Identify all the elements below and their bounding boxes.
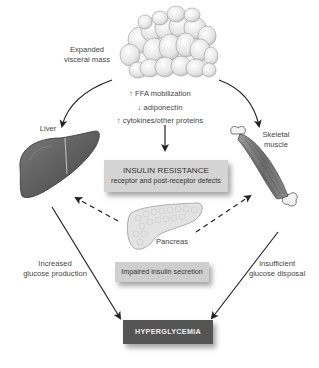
skeletal-muscle-label: Skeletal muscle — [256, 130, 296, 149]
skeletal-muscle-label-line2: muscle — [256, 140, 296, 150]
increased-glucose-production-line2: glucose production — [20, 269, 90, 279]
effect-adiponectin: ↓ adiponectin — [100, 101, 220, 115]
metabolic-effects-list: ↑ FFA mobilization ↓ adiponectin ↑ cytok… — [100, 87, 220, 128]
insufficient-glucose-disposal-line1: Insufficient — [244, 259, 310, 269]
visceral-fat-cluster-icon — [120, 6, 218, 78]
up-arrow-icon: ↑ — [129, 89, 133, 98]
impaired-insulin-secretion-box: Impaired insulin secretion — [115, 262, 209, 282]
insufficient-glucose-disposal-line2: glucose disposal — [244, 269, 310, 279]
effect-ffa-text: FFA mobilization — [135, 89, 191, 98]
visceral-mass-label: Expanded visceral mass — [62, 45, 112, 64]
hyperglycemia-box: HYPERGLYCEMIA — [123, 320, 213, 344]
insulin-resistance-subtitle: receptor and post-receptor defects — [104, 176, 228, 185]
pancreas-label: Pancreas — [152, 237, 192, 247]
skeletal-muscle-label-line1: Skeletal — [256, 130, 296, 140]
effect-adiponectin-text: adiponectin — [144, 103, 183, 112]
effect-ffa: ↑ FFA mobilization — [100, 87, 220, 101]
impaired-insulin-secretion-label: Impaired insulin secretion — [115, 262, 209, 282]
dashed-arrow-pancreas-to-liver — [76, 198, 118, 221]
insulin-resistance-title: INSULIN RESISTANCE — [104, 166, 228, 175]
insufficient-glucose-disposal-label: Insufficient glucose disposal — [244, 259, 310, 278]
liver-label: Liver — [36, 124, 60, 134]
visceral-mass-label-line1: Expanded — [62, 45, 112, 55]
up-arrow-icon: ↑ — [117, 116, 121, 125]
dashed-arrow-pancreas-to-muscle — [196, 196, 250, 232]
increased-glucose-production-line1: Increased — [20, 259, 90, 269]
down-arrow-icon: ↓ — [138, 103, 142, 112]
increased-glucose-production-label: Increased glucose production — [20, 259, 90, 278]
liver-icon — [20, 131, 100, 198]
insulin-resistance-box: INSULIN RESISTANCE receptor and post-rec… — [104, 160, 228, 192]
effect-cytokines-text: cytokines/other proteins — [123, 116, 203, 125]
visceral-mass-label-line2: visceral mass — [62, 55, 112, 65]
effect-cytokines: ↑ cytokines/other proteins — [100, 114, 220, 128]
arrow-fat-to-muscle — [219, 80, 259, 126]
hyperglycemia-label: HYPERGLYCEMIA — [123, 320, 213, 344]
